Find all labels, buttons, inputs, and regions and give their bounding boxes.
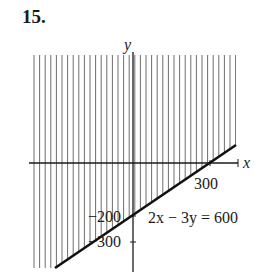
y-axis-label: y <box>122 36 132 54</box>
x-tick-label-300: 300 <box>194 175 218 192</box>
x-axis-label: x <box>242 154 250 171</box>
inequality-graph: x y 300 −200 −300 2x − 3y = 600 <box>0 0 269 275</box>
equation-text: 2x − 3y = 600 <box>148 209 238 227</box>
y-tick-label-neg300: −300 <box>88 233 121 250</box>
equation-label: 2x − 3y = 600 <box>148 209 238 227</box>
y-tick-label-neg200: −200 <box>88 208 121 225</box>
